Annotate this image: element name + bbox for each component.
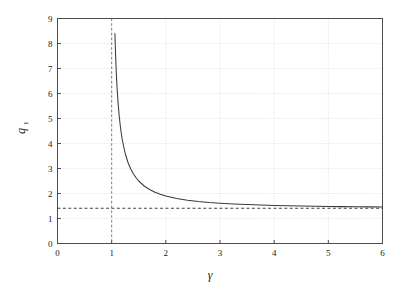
x-tick-label: 0 [55,248,60,258]
y-axis-label-subscript: 1 [22,121,30,125]
x-tick-label: 5 [326,248,331,258]
y-tick-label: 3 [48,164,53,174]
x-tick-label: 6 [380,248,385,258]
y-tick-label: 1 [48,214,53,224]
y-tick-label: 0 [48,239,53,249]
line-chart: 0123456 0123456789 γ q 1 [0,0,403,291]
y-tick-label: 7 [48,64,53,74]
y-tick-label: 4 [48,139,53,149]
x-tick-label: 2 [164,248,169,258]
x-axis-label: γ [208,268,213,282]
x-tick-label: 3 [218,248,223,258]
x-tick-label: 1 [109,248,114,258]
y-tick-label: 9 [48,14,53,24]
y-tick-label: 8 [48,39,53,49]
y-tick-label: 2 [48,189,53,199]
y-tick-label: 6 [48,89,53,99]
y-axis-label-base: q [14,128,28,134]
x-tick-label: 4 [272,248,277,258]
figure-container: 0123456 0123456789 γ q 1 [0,0,403,291]
y-tick-label: 5 [48,114,53,124]
